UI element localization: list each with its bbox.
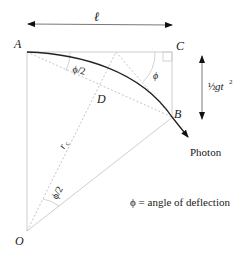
photon-deflection-diagram: ℓ ½ gt 2 A C B D O ϕ/2 ϕ ϕ/2 r c Photon … — [0, 0, 246, 254]
drop-exponent: 2 — [229, 78, 233, 86]
point-b-label: B — [174, 107, 182, 121]
right-angle-marker — [163, 52, 172, 61]
point-d-label: D — [96, 92, 106, 106]
chord-a-b — [27, 52, 172, 117]
legend-text: ϕ = angle of deflection — [130, 196, 230, 208]
drop-term: gt — [215, 80, 225, 92]
half-angle-label-bottom: ϕ/2 — [49, 184, 65, 201]
angle-label-c: ϕ — [153, 70, 158, 81]
point-o-label: O — [15, 234, 24, 248]
radius-label: r c — [56, 138, 71, 151]
point-c-label: C — [176, 39, 185, 53]
tangent-to-b — [116, 52, 172, 117]
line-o-b — [27, 116, 174, 231]
point-a-label: A — [13, 37, 22, 51]
half-angle-arc-top — [66, 52, 70, 71]
half-angle-label-top: ϕ/2 — [72, 63, 87, 76]
line-o-d — [27, 52, 116, 231]
drop-label: ½ gt 2 — [208, 78, 233, 92]
length-label: ℓ — [94, 9, 100, 24]
length-dimension-arrow — [28, 24, 172, 25]
photon-label: Photon — [190, 146, 222, 158]
